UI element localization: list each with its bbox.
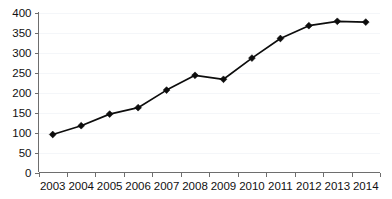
y-tick-label: 250 xyxy=(12,67,31,79)
x-tick-label: 2003 xyxy=(40,180,66,192)
line-chart: 050100150200250300350400 200320042005200… xyxy=(0,0,392,199)
x-tick-label: 2007 xyxy=(154,180,180,192)
x-tick-label: 2004 xyxy=(68,180,94,192)
x-tick-label: 2013 xyxy=(325,180,351,192)
x-tick-label: 2008 xyxy=(182,180,208,192)
x-tick-label: 2011 xyxy=(268,180,293,192)
y-tick-label: 300 xyxy=(12,47,31,59)
x-tick-label: 2006 xyxy=(125,180,151,192)
y-tick-label: 50 xyxy=(19,147,32,159)
x-tick-label: 2012 xyxy=(296,180,322,192)
x-tick-label: 2005 xyxy=(97,180,123,192)
y-tick-label: 350 xyxy=(12,27,31,39)
y-tick-label: 400 xyxy=(12,7,31,19)
y-tick-label: 150 xyxy=(12,107,31,119)
chart-background xyxy=(0,0,392,199)
chart-canvas: 050100150200250300350400 200320042005200… xyxy=(0,0,392,199)
x-tick-label: 2010 xyxy=(239,180,265,192)
y-tick-label: 200 xyxy=(12,87,31,99)
y-tick-label: 0 xyxy=(25,167,31,179)
y-tick-label: 100 xyxy=(12,127,31,139)
x-tick-label: 2009 xyxy=(211,180,237,192)
x-tick-label: 2014 xyxy=(353,180,379,192)
